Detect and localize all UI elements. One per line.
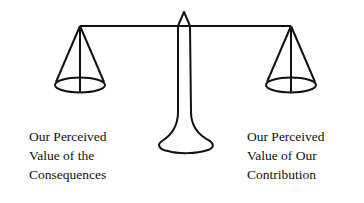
left-label-line-3: Consequences	[29, 165, 107, 184]
right-label-line-3: Contribution	[247, 165, 325, 184]
left-label-line-2: Value of the	[29, 146, 107, 165]
left-pan-label: Our Perceived Value of the Consequences	[29, 127, 107, 184]
right-pan-label: Our Perceived Value of Our Contribution	[247, 127, 325, 184]
left-label-line-1: Our Perceived	[29, 127, 107, 146]
right-pan	[266, 26, 316, 93]
right-label-line-1: Our Perceived	[247, 127, 325, 146]
balance-scale-diagram: Our Perceived Value of the Consequences …	[0, 0, 364, 203]
left-pan	[55, 26, 105, 93]
right-label-line-2: Value of Our	[247, 146, 325, 165]
scale-pillar	[159, 12, 213, 153]
